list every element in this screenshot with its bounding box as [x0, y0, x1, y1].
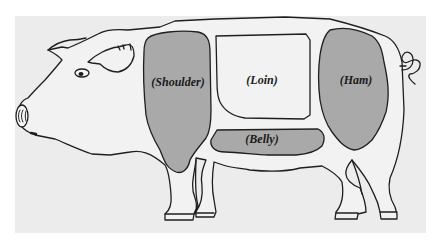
label-shoulder: (Shoulder)	[151, 75, 204, 90]
label-ham: (Ham)	[340, 73, 373, 88]
pig-cuts-diagram: (Shoulder) (Loin) (Ham) (Belly)	[0, 0, 445, 247]
pig-illustration	[0, 0, 445, 247]
label-loin: (Loin)	[246, 73, 277, 88]
label-belly: (Belly)	[245, 132, 278, 147]
pig-tail	[402, 52, 420, 84]
